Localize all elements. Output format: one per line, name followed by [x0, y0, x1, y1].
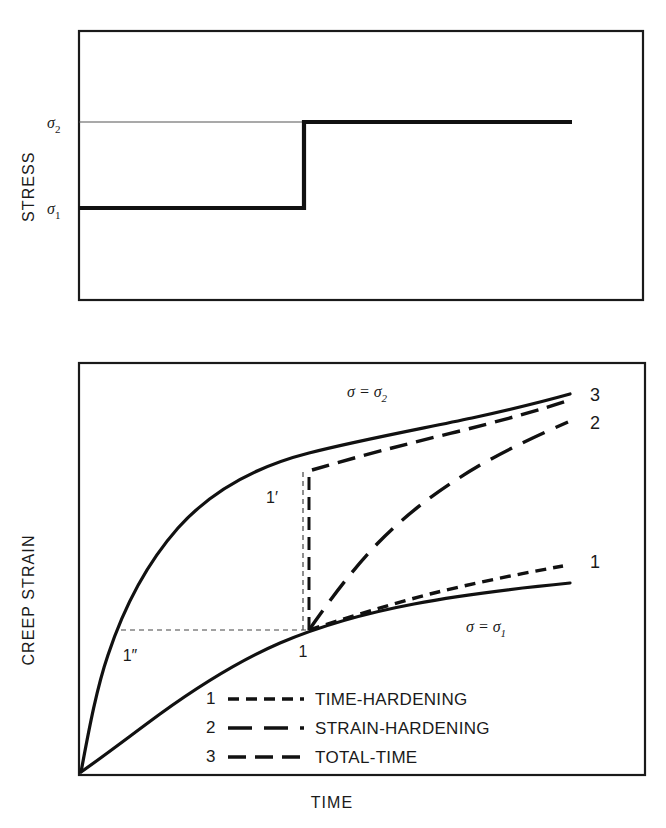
creep-curve-sigma-2 [81, 394, 570, 772]
creep-legend: 1 TIME-HARDENING 2 STRAIN-HARDENING 3 TO… [206, 689, 490, 767]
creep-chart: CREEP STRAIN TIME σ = σ2 σ = σ1 1 1′ 1″ … [20, 363, 645, 811]
curve-end-label-3: 3 [590, 385, 600, 405]
curve-end-label-1: 1 [590, 552, 600, 572]
legend-item-strain-hardening[interactable]: 2 STRAIN-HARDENING [206, 718, 490, 738]
figure-root: STRESS σ2 σ1 [0, 0, 666, 828]
point-label-1-prime: 1′ [266, 489, 278, 506]
creep-curve-sigma-1 [81, 583, 570, 772]
sigma-eq-1-text: σ = σ [466, 618, 502, 635]
point-label-1-double-prime: 1″ [123, 647, 138, 664]
curve-total-time [312, 400, 570, 470]
creep-figure: STRESS σ2 σ1 [0, 0, 666, 828]
stress-chart: STRESS σ2 σ1 [20, 31, 643, 300]
sigma-2-subscript: 2 [55, 123, 61, 135]
stress-tick-sigma-1: σ1 [47, 200, 60, 221]
legend-label-total-time: TOTAL-TIME [315, 748, 418, 767]
legend-label-time-hardening: TIME-HARDENING [315, 690, 467, 709]
annotation-sigma-equals-sigma-1: σ = σ1 [466, 618, 506, 639]
stress-plot-frame [79, 31, 643, 300]
time-axis-label: TIME [311, 794, 354, 811]
annotation-sigma-equals-sigma-2: σ = σ2 [347, 383, 388, 404]
legend-key-3: 3 [206, 747, 215, 766]
legend-item-time-hardening[interactable]: 1 TIME-HARDENING [206, 689, 467, 709]
legend-label-strain-hardening: STRAIN-HARDENING [315, 719, 490, 738]
sigma-eq-1-subscript: 1 [501, 627, 507, 639]
sigma-1-subscript: 1 [55, 209, 61, 221]
legend-key-2: 2 [206, 718, 215, 737]
stress-axis-label: STRESS [20, 151, 37, 222]
sigma-eq-2-subscript: 2 [382, 392, 388, 404]
creep-strain-axis-label: CREEP STRAIN [20, 534, 37, 665]
stress-tick-sigma-2: σ2 [47, 114, 60, 135]
stress-step-curve [79, 122, 572, 208]
legend-key-1: 1 [206, 689, 215, 708]
sigma-eq-2-text: σ = σ [347, 383, 383, 400]
legend-item-total-time[interactable]: 3 TOTAL-TIME [206, 747, 418, 767]
point-label-1: 1 [299, 643, 308, 660]
curve-end-label-2: 2 [590, 413, 600, 433]
